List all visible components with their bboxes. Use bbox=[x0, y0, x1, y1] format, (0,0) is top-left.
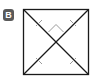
square-diagonals-diagram bbox=[0, 0, 95, 80]
right-angle-marker bbox=[49, 25, 64, 33]
